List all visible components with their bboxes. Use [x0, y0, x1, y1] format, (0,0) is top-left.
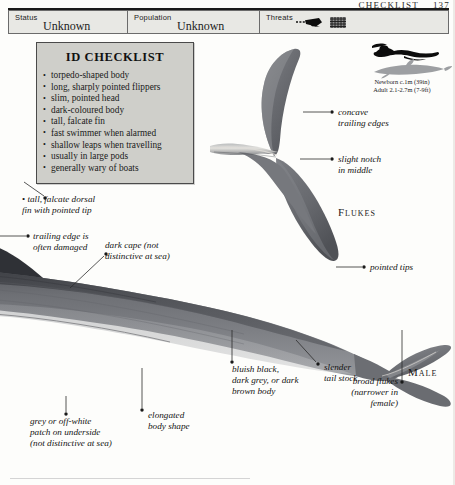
- annotation-line: often damaged: [33, 242, 87, 252]
- flukes-illustration: [198, 48, 348, 280]
- population-cell: Population Unknown: [128, 11, 259, 33]
- section-label-flukes: Flukes: [338, 206, 376, 218]
- size-newborn: Newborn c.1m (39in): [352, 78, 452, 86]
- status-value: Unknown: [43, 19, 90, 34]
- harpoon-icon: [296, 17, 322, 28]
- annotation-tall-falcate-dorsal-fin: • tall, falcate dorsal fin with pointed …: [22, 194, 95, 216]
- field-guide-page: CHECKLIST137 Status Unknown Population U…: [0, 0, 455, 485]
- id-checklist-panel: ID CHECKLIST torpedo-shaped body long, s…: [36, 42, 194, 184]
- status-label: Status: [15, 13, 37, 22]
- list-item: torpedo-shaped body: [51, 70, 189, 82]
- net-icon: [330, 17, 346, 28]
- annotation-line: trailing edge is: [33, 231, 89, 241]
- annotation-concave-trailing-edges: concave trailing edges: [338, 107, 389, 129]
- section-label-male: Male: [408, 366, 437, 378]
- list-item: tall, falcate fin: [51, 116, 189, 128]
- annotation-slight-notch: slight notch in middle: [338, 154, 381, 176]
- status-bar: Status Unknown Population Unknown Threat…: [8, 10, 449, 34]
- threats-label: Threats: [266, 13, 293, 22]
- annotation-line: dark cape (not: [105, 240, 159, 250]
- annotation-dark-cape: dark cape (not distinctive at sea): [105, 240, 170, 262]
- annotation-line: fin with pointed tip: [22, 205, 92, 215]
- list-item: slim, pointed head: [51, 93, 189, 105]
- annotation-line: bluish black,: [232, 364, 279, 374]
- list-item: generally wary of boats: [51, 163, 189, 175]
- status-cell: Status Unknown: [9, 11, 127, 33]
- annotation-line: broad flukes: [353, 376, 398, 386]
- id-checklist-title: ID CHECKLIST: [37, 50, 193, 65]
- id-checklist-items: torpedo-shaped body long, sharply pointe…: [37, 70, 193, 174]
- swimmer-silhouette-icon: [372, 44, 439, 61]
- population-label: Population: [134, 13, 171, 22]
- annotation-bluish-black-body: bluish black, dark grey, or dark brown b…: [232, 364, 299, 398]
- threat-icons: [296, 17, 346, 28]
- bottom-rule: [10, 478, 250, 479]
- annotation-line: grey or off-white: [30, 416, 91, 426]
- list-item: usually in large pods: [51, 151, 189, 163]
- annotation-line: trailing edges: [338, 118, 389, 128]
- annotation-line: slender: [324, 362, 351, 372]
- annotation-line: distinctive at sea): [105, 251, 170, 261]
- annotation-line: pointed tips: [370, 262, 413, 272]
- annotation-trailing-edge-damaged: trailing edge is often damaged: [33, 231, 89, 253]
- dolphin-silhouette-icon: [374, 59, 452, 78]
- annotation-line: body shape: [148, 421, 190, 431]
- size-comparison-icons: [352, 40, 452, 80]
- annotation-line: elongated: [148, 410, 184, 420]
- annotation-line: slight notch: [338, 154, 381, 164]
- annotation-line: patch on underside: [30, 427, 100, 437]
- list-item: fast swimmer when alarmed: [51, 128, 189, 140]
- list-item: long, sharply pointed flippers: [51, 82, 189, 94]
- size-comparison: Newborn c.1m (39in) Adult 2.1-2.7m (7-9f…: [352, 40, 452, 98]
- annotation-line: (narrower in: [351, 387, 398, 397]
- annotation-grey-patch-underside: grey or off-white patch on underside (no…: [30, 416, 112, 450]
- annotation-line: concave: [338, 107, 368, 117]
- annotation-line: dark grey, or dark: [232, 375, 299, 385]
- annotation-elongated-body-shape: elongated body shape: [148, 410, 190, 432]
- list-item: shallow leaps when travelling: [51, 140, 189, 152]
- size-adult: Adult 2.1-2.7m (7-9ft): [352, 86, 452, 94]
- annotation-line: female): [370, 398, 398, 408]
- size-text: Newborn c.1m (39in) Adult 2.1-2.7m (7-9f…: [352, 78, 452, 95]
- annotation-pointed-tips: pointed tips: [370, 262, 413, 273]
- list-item: dark-coloured body: [51, 105, 189, 117]
- annotation-line: (not distinctive at sea): [30, 438, 112, 448]
- annotation-line: brown body: [232, 386, 275, 396]
- annotation-bullet: •: [22, 194, 25, 204]
- annotation-line: in middle: [338, 165, 372, 175]
- annotation-line: tall, falcate dorsal: [27, 194, 95, 204]
- threats-cell: Threats: [260, 11, 450, 33]
- population-value: Unknown: [177, 19, 224, 34]
- annotation-broad-flukes: broad flukes (narrower in female): [322, 376, 398, 410]
